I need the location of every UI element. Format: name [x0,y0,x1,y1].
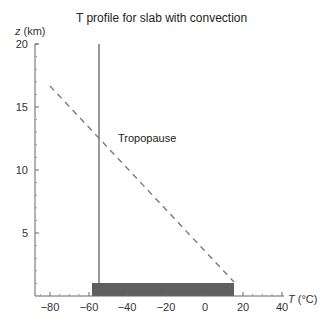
x-tick-labels: −80 −60 −40 −20 0 20 40 [41,301,288,313]
svg-text:−40: −40 [118,301,137,313]
svg-text:−20: −20 [157,301,176,313]
x-major-ticks [50,292,282,296]
tropopause-label: Tropopause [118,132,176,144]
svg-text:5: 5 [22,227,28,239]
svg-text:10: 10 [16,164,28,176]
chart-title: T profile for slab with convection [76,11,247,25]
svg-text:0: 0 [202,301,208,313]
svg-text:40: 40 [276,301,288,313]
y-major-ticks [35,44,39,233]
svg-text:20: 20 [237,301,249,313]
x-axis-label: T(°C) [288,293,317,305]
svg-text:15: 15 [16,101,28,113]
temperature-profile-chart: T profile for slab with convection z(km)… [0,0,334,326]
svg-text:20: 20 [16,38,28,50]
svg-text:−60: −60 [80,301,99,313]
svg-text:−80: −80 [41,301,60,313]
y-axis-label: z(km) [14,25,46,37]
y-tick-labels: 5 10 15 20 [16,38,28,239]
temperature-profile-dashed-line [50,86,234,282]
slab-bar [92,283,234,296]
